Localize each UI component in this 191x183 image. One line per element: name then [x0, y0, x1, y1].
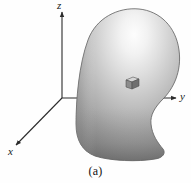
axis-label-z: z — [57, 0, 61, 11]
axis-label-x: x — [8, 146, 13, 157]
figure-caption: (a) — [0, 164, 191, 179]
x-axis-line — [16, 98, 62, 145]
axis-label-y: y — [180, 91, 185, 102]
figure-container: z y x (a) — [0, 0, 191, 183]
figure-drawing-canvas — [0, 0, 191, 183]
